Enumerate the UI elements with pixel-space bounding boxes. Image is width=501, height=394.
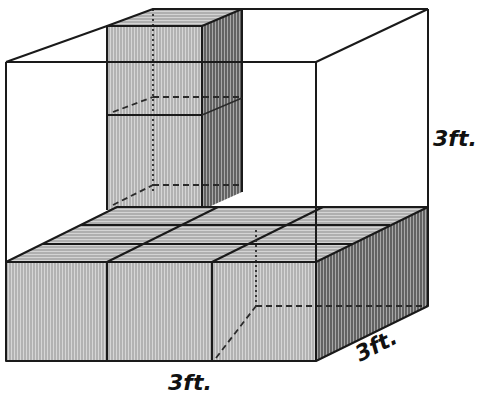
cubic-yard-diagram: 3ft. 3ft. 3ft.: [0, 0, 501, 394]
cube-column: [107, 9, 242, 210]
column-right-face: [202, 9, 242, 210]
column-front-face: [107, 26, 202, 210]
outline-right-top-edge: [316, 9, 428, 62]
width-dimension-label: 3ft.: [168, 370, 212, 394]
height-dimension-label: 3ft.: [433, 126, 477, 151]
outline-left-top-edge: [6, 26, 107, 62]
layer-front-face: [6, 262, 316, 361]
